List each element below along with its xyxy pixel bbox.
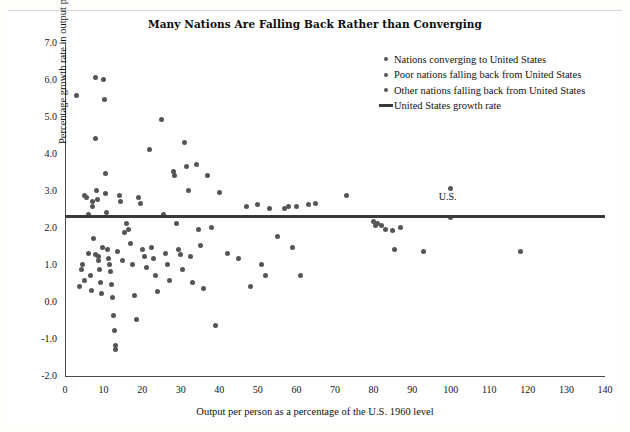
scatter-point — [167, 278, 172, 283]
x-tick-label: 10 — [84, 384, 124, 395]
x-tick-label: 80 — [354, 384, 394, 395]
y-tick-label: 1.0 — [27, 259, 57, 270]
scatter-point — [115, 249, 120, 254]
y-tick-label: 2.0 — [27, 222, 57, 233]
scatter-point — [109, 282, 114, 287]
scatter-point — [89, 288, 94, 293]
legend-item-2: Other nations falling back from United S… — [378, 83, 585, 97]
x-tick-label: 90 — [392, 384, 432, 395]
scatter-point — [275, 234, 280, 239]
legend-label: Nations converging to United States — [394, 54, 546, 65]
x-tick-label: 20 — [122, 384, 162, 395]
scatter-point — [398, 225, 403, 230]
scatter-point — [132, 293, 137, 298]
scatter-point — [99, 291, 104, 296]
figure-container: Many Nations Are Falling Back Rather tha… — [0, 0, 630, 432]
x-tick-label: 140 — [585, 384, 625, 395]
legend-swatch — [378, 104, 394, 107]
y-tick-label: 3.0 — [27, 185, 57, 196]
scatter-point — [140, 247, 145, 252]
legend-item-3: United States growth rate — [378, 99, 585, 113]
legend-item-1: Poor nations falling back from United St… — [378, 68, 585, 82]
scatter-point — [101, 77, 106, 82]
legend-swatch — [378, 57, 394, 61]
scatter-point — [80, 262, 85, 267]
y-tick-label: 0.0 — [27, 296, 57, 307]
y-tick-label: 7.0 — [27, 37, 57, 48]
scatter-point — [225, 251, 230, 256]
scatter-point — [138, 201, 143, 206]
us-growth-rate-line — [65, 215, 605, 218]
scatter-point — [213, 323, 218, 328]
scatter-point — [194, 162, 199, 167]
x-tick-label: 0 — [45, 384, 85, 395]
legend-dot-marker-icon — [384, 88, 388, 92]
scatter-point — [165, 262, 170, 267]
scatter-point — [134, 317, 139, 322]
scatter-point — [103, 171, 108, 176]
legend-dot-marker-icon — [384, 73, 388, 77]
scatter-point — [130, 262, 135, 267]
scatter-point — [184, 164, 189, 169]
y-tick-label: 4.0 — [27, 148, 57, 159]
scatter-point — [105, 247, 110, 252]
legend-label: Poor nations falling back from United St… — [394, 69, 581, 80]
x-axis-title: Output per person as a percentage of the… — [0, 406, 630, 417]
scatter-point — [144, 265, 149, 270]
legend-dot-marker-icon — [384, 57, 388, 61]
scatter-point — [421, 249, 426, 254]
us-annotation-label: U.S. — [439, 191, 457, 202]
scatter-point — [102, 97, 107, 102]
scatter-point — [94, 188, 99, 193]
x-tick-label: 130 — [546, 384, 586, 395]
y-tick-label: -2.0 — [27, 370, 57, 381]
scatter-point — [217, 190, 222, 195]
scatter-point — [263, 273, 268, 278]
x-tick-label: 40 — [199, 384, 239, 395]
legend: Nations converging to United StatesPoor … — [378, 52, 585, 114]
scatter-point — [196, 227, 201, 232]
legend-item-0: Nations converging to United States — [378, 52, 585, 66]
scatter-point — [106, 256, 111, 261]
scatter-point — [90, 199, 95, 204]
y-tick-label: -1.0 — [27, 333, 57, 344]
scatter-point — [117, 193, 122, 198]
scatter-point — [209, 225, 214, 230]
chart-title: Many Nations Are Falling Back Rather tha… — [0, 18, 630, 30]
scatter-point — [126, 227, 131, 232]
scatter-point — [298, 273, 303, 278]
scatter-point — [136, 195, 141, 200]
scatter-point — [77, 284, 82, 289]
scatter-point — [163, 251, 168, 256]
scatter-point — [107, 262, 112, 267]
scatter-point — [79, 267, 84, 272]
y-tick-label: 5.0 — [27, 111, 57, 122]
legend-line-marker-icon — [379, 104, 393, 107]
x-tick-label: 60 — [276, 384, 316, 395]
scatter-point — [248, 284, 253, 289]
scatter-point — [142, 254, 147, 259]
x-tick-label: 120 — [508, 384, 548, 395]
x-tick-label: 70 — [315, 384, 355, 395]
scatter-point — [518, 249, 523, 254]
legend-swatch — [378, 73, 394, 77]
y-tick-label: 6.0 — [27, 74, 57, 85]
x-tick-label: 30 — [161, 384, 201, 395]
x-tick-label: 110 — [469, 384, 509, 395]
scatter-point — [313, 201, 318, 206]
scatter-point — [190, 280, 195, 285]
legend-label: United States growth rate — [394, 100, 501, 111]
scatter-point — [153, 273, 158, 278]
scatter-point — [198, 243, 203, 248]
scatter-point — [110, 295, 115, 300]
x-tick-label: 50 — [238, 384, 278, 395]
scatter-point — [186, 188, 191, 193]
scatter-point — [182, 140, 187, 145]
scatter-point — [383, 227, 388, 232]
scatter-point — [100, 245, 105, 250]
scatter-point — [88, 273, 93, 278]
scatter-point — [259, 262, 264, 267]
x-tick-label: 100 — [431, 384, 471, 395]
legend-label: Other nations falling back from United S… — [394, 85, 585, 96]
legend-swatch — [378, 88, 394, 92]
